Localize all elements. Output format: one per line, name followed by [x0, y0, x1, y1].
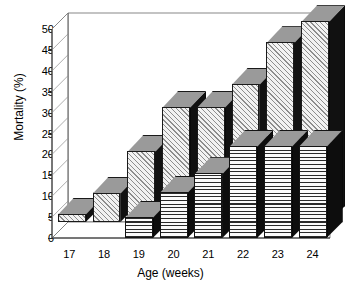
bar-front-face [299, 146, 327, 238]
bar-side-face [327, 130, 343, 238]
